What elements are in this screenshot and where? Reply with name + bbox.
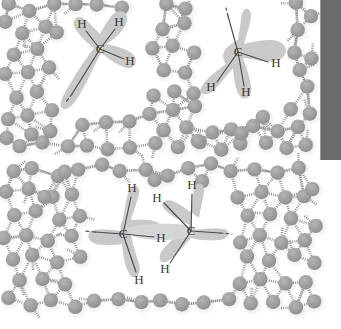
water-molecule <box>21 182 35 196</box>
water-molecule <box>1 112 15 126</box>
water-molecule <box>148 136 162 150</box>
water-molecule <box>284 211 298 225</box>
water-molecule <box>35 272 49 286</box>
water-molecule <box>71 162 85 176</box>
water-molecule <box>122 114 136 128</box>
carbon-label-bottom-left: C <box>119 226 128 241</box>
water-molecule <box>100 142 114 156</box>
water-molecule <box>7 48 21 62</box>
water-molecule <box>44 293 58 307</box>
water-molecule <box>171 140 185 154</box>
water-molecule <box>7 164 21 178</box>
water-molecule <box>68 300 82 314</box>
water-molecule <box>300 79 314 93</box>
water-molecule <box>291 120 305 134</box>
hydrogen-bond <box>206 137 207 138</box>
water-molecule <box>12 139 26 153</box>
water-molecule <box>214 143 228 157</box>
water-molecule <box>146 88 160 102</box>
water-molecule <box>287 46 301 60</box>
water-molecule <box>187 45 201 59</box>
water-molecule <box>254 185 268 199</box>
hydrogen-label-top-right-1: H <box>271 55 280 70</box>
water-molecule <box>307 256 321 270</box>
water-molecule <box>166 103 180 117</box>
water-molecule <box>175 297 189 311</box>
water-molecule <box>177 16 191 30</box>
water-molecule <box>24 161 38 175</box>
hydrogen-label-bottom-right-3: H <box>160 261 169 276</box>
water-molecule <box>95 157 109 171</box>
water-molecule <box>30 42 44 56</box>
water-molecule <box>278 276 292 290</box>
water-molecule <box>230 190 244 204</box>
water-molecule <box>191 134 205 148</box>
water-molecule <box>259 136 273 150</box>
water-molecule <box>147 173 161 187</box>
water-molecule <box>15 26 29 40</box>
water-molecule <box>278 190 292 204</box>
water-molecule <box>181 161 195 175</box>
water-molecule <box>287 248 301 262</box>
water-molecule <box>165 39 179 53</box>
hydrogen-label-bottom-right-2: H <box>152 190 161 205</box>
water-molecule <box>292 161 306 175</box>
water-molecule <box>244 296 258 310</box>
water-molecule <box>205 125 219 139</box>
water-molecule <box>65 187 79 201</box>
water-molecule <box>240 249 254 263</box>
water-molecule <box>179 120 193 134</box>
hydrogen-label-top-left-3: H <box>125 53 134 68</box>
water-molecule <box>196 295 210 309</box>
water-molecule <box>73 250 87 264</box>
water-molecule <box>50 25 64 39</box>
carbon-label-bottom-right: C <box>187 223 196 238</box>
water-molecule <box>270 165 284 179</box>
hydrophobic-effect-figure: C H H H C H H H <box>0 0 341 329</box>
water-molecule <box>87 294 101 308</box>
water-molecule <box>298 233 312 247</box>
water-molecule <box>222 292 236 306</box>
water-molecule <box>299 275 313 289</box>
water-molecule <box>186 86 200 100</box>
hydrogen-label-top-left-1: H <box>77 16 86 31</box>
water-molecule <box>111 292 125 306</box>
water-molecule <box>160 168 174 182</box>
water-molecule <box>25 248 39 262</box>
water-molecule <box>142 107 156 121</box>
water-molecule <box>167 84 181 98</box>
water-molecule <box>157 63 171 77</box>
water-molecule <box>80 138 94 152</box>
water-molecule <box>75 118 89 132</box>
water-molecule <box>123 140 137 154</box>
water-molecule <box>50 255 64 269</box>
hydrogen-label-bottom-right-1: H <box>187 177 196 192</box>
water-molecule <box>233 235 247 249</box>
water-molecule <box>29 204 43 218</box>
molecular-diagram-canvas: C H H H C H H H <box>0 0 341 329</box>
water-molecule <box>279 141 293 155</box>
water-molecule <box>6 252 20 266</box>
water-molecule <box>64 229 78 243</box>
water-molecule <box>9 91 23 105</box>
water-molecule <box>241 208 255 222</box>
water-molecule <box>24 127 38 141</box>
water-molecule <box>0 131 14 145</box>
water-molecule <box>309 219 323 233</box>
water-molecule <box>178 1 192 15</box>
water-molecule <box>41 234 55 248</box>
hydrogen-label-bottom-left-1: H <box>127 180 136 195</box>
water-molecule <box>61 139 75 153</box>
water-molecule <box>20 108 34 122</box>
water-molecule <box>19 228 33 242</box>
water-molecule <box>284 102 298 116</box>
water-molecule <box>263 207 277 221</box>
water-molecule <box>21 65 35 79</box>
hydrogen-label-top-left-2: H <box>114 14 123 29</box>
water-molecule <box>156 123 170 137</box>
water-molecule <box>1 291 15 305</box>
water-molecule <box>303 106 317 120</box>
carbon-label-top-right: C <box>234 44 243 59</box>
hydrogen-label-bottom-left-2: H <box>156 230 165 245</box>
water-molecule <box>134 295 148 309</box>
